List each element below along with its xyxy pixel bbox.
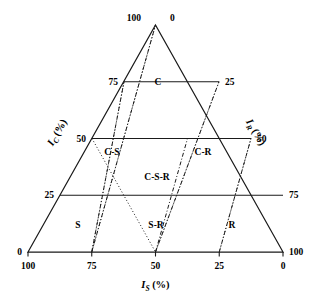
axis-title-left: IC(%) [45,117,72,150]
tick-label-left-75: 75 [109,77,119,87]
tick-label-right-25: 25 [225,77,235,87]
tick-label-bottom-25: 25 [215,261,225,271]
axis-title-bottom-unit: (%) [152,279,170,291]
region-label-c: C [155,77,162,87]
tick-label-left-25: 25 [45,190,55,200]
axis-title-right: IR(%) [241,116,268,149]
axis-title-left-unit: (%) [51,117,70,139]
region-label-s: S [75,220,80,230]
corner-label-bottom-right-lower: 0 [281,261,286,271]
tick-label-bottom-50: 50 [151,261,161,271]
region-label-c-s-r: C-S-R [144,172,169,182]
tick-label-left-50: 50 [77,134,87,144]
corner-label-bottom-left-lower: 100 [21,261,36,271]
axis-title-right-group: IR(%) [241,116,268,149]
tick-label-right-75: 75 [289,190,299,200]
region-label-c-r: C-R [195,147,212,157]
gridlines-horizontal-solid [60,82,283,196]
ternary-diagram-figure: 100 0 0 100 100 0 25 50 75 75 50 25 75 5… [0,0,313,296]
corner-label-bottom-left-upper: 0 [17,247,22,257]
region-label-r: R [229,220,236,230]
corner-label-bottom-right-upper: 100 [289,247,304,257]
corner-label-apex-right: 0 [170,13,175,23]
tick-label-bottom-75: 75 [87,261,97,271]
corner-label-apex-left: 100 [127,13,142,23]
gridline-is-50 [156,82,220,252]
region-label-c-s: C-S [104,147,119,157]
axis-title-left-group: IC(%) [45,117,72,150]
tick-marks [28,252,283,257]
axis-title-bottom: IS(%) [140,279,170,293]
ternary-diagram-svg: 100 0 0 100 100 0 25 50 75 75 50 25 75 5… [0,0,313,296]
region-label-s-r: S-R [148,220,163,230]
axis-title-right-unit: (%) [249,127,268,149]
axis-title-bottom-sub: S [145,284,149,293]
